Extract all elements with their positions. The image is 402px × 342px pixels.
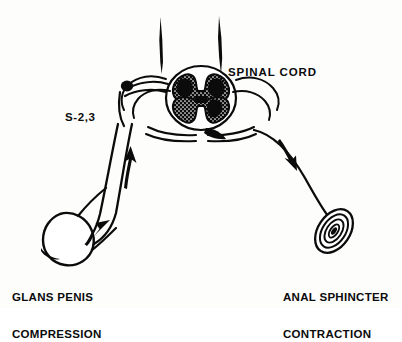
dorsal-root-ganglion	[121, 81, 133, 92]
label-spinal-cord-text: SPINAL CORD	[228, 66, 317, 78]
label-anal-sphincter-contraction: ANAL SPHINCTER CONTRACTION	[283, 266, 389, 342]
label-spinal-segment-text: S-2,3	[65, 111, 96, 123]
label-glans-penis-line2: COMPRESSION	[12, 328, 102, 340]
label-spinal-cord: SPINAL CORD	[228, 41, 317, 103]
label-anal-sphincter-line1: ANAL SPHINCTER	[283, 291, 389, 303]
label-glans-penis-line1: GLANS PENIS	[12, 291, 102, 303]
label-spinal-segment: S-2,3	[65, 86, 96, 148]
label-glans-penis-compression: GLANS PENIS COMPRESSION	[12, 266, 102, 342]
label-anal-sphincter-line2: CONTRACTION	[283, 328, 389, 340]
